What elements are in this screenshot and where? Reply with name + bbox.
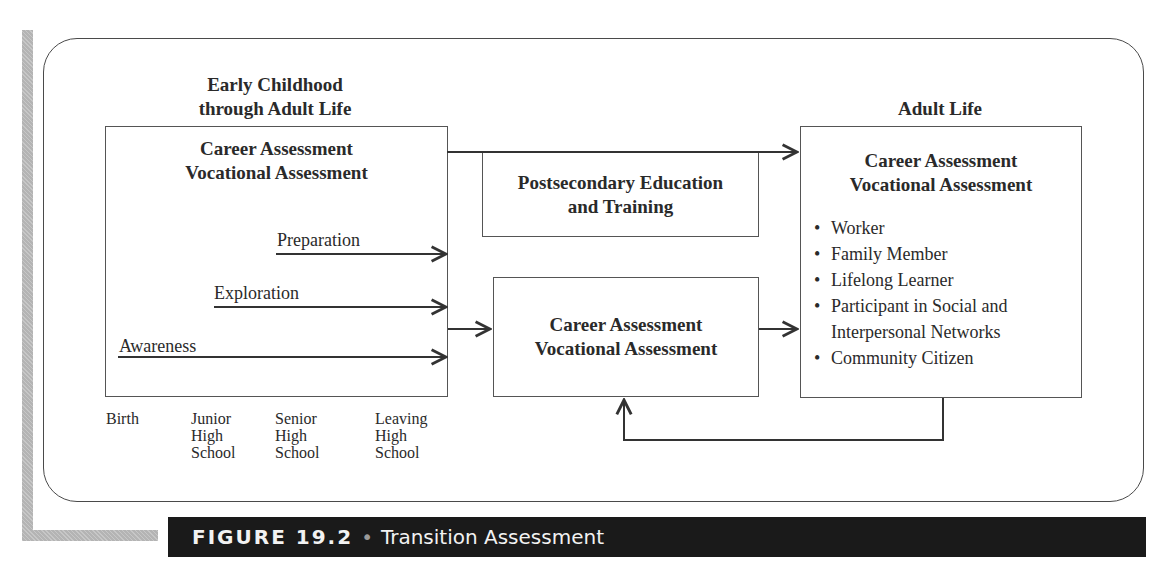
figure-caption: FIGURE 19.2•Transition Assessment xyxy=(168,517,1146,557)
figure-number: FIGURE 19.2 xyxy=(192,525,353,549)
figure-title: Transition Assessment xyxy=(381,525,604,549)
feedback-loop-arrow xyxy=(624,398,943,440)
caption-separator-icon: • xyxy=(361,525,373,549)
connector-arrows xyxy=(0,0,1171,572)
